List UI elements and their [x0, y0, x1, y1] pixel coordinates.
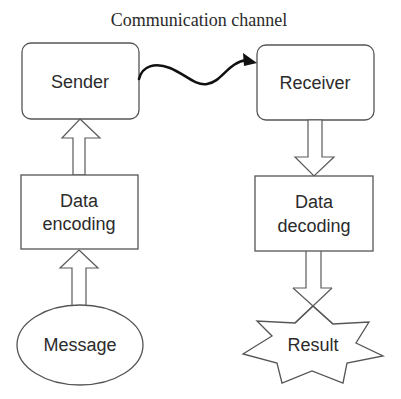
up-arrow-encoding-to-sender — [62, 119, 100, 175]
message-label: Message — [43, 335, 116, 355]
sender-label: Sender — [51, 72, 109, 92]
result-label: Result — [287, 335, 338, 355]
result-node: Result — [243, 288, 383, 383]
decoding-label-line2: decoding — [277, 216, 350, 236]
diagram-title: Communication channel — [111, 10, 287, 30]
message-node: Message — [17, 305, 143, 385]
communication-diagram: Communication channel Sender Receiver Da… — [0, 0, 401, 399]
data-decoding-node: Data decoding — [255, 176, 373, 251]
up-arrow-message-to-encoding — [60, 250, 98, 306]
encoding-label-line1: Data — [60, 191, 99, 211]
data-encoding-node: Data encoding — [21, 175, 138, 249]
receiver-node: Receiver — [257, 45, 374, 120]
down-arrow-receiver-to-decoding — [295, 120, 334, 176]
sender-node: Sender — [22, 43, 139, 119]
down-arrow-decoding-to-result — [293, 251, 332, 288]
encoding-label-line2: encoding — [42, 214, 115, 234]
receiver-label: Receiver — [279, 73, 350, 93]
communication-channel-arrow — [139, 53, 257, 84]
arrowhead-icon — [243, 53, 257, 66]
decoding-label-line1: Data — [295, 192, 334, 212]
